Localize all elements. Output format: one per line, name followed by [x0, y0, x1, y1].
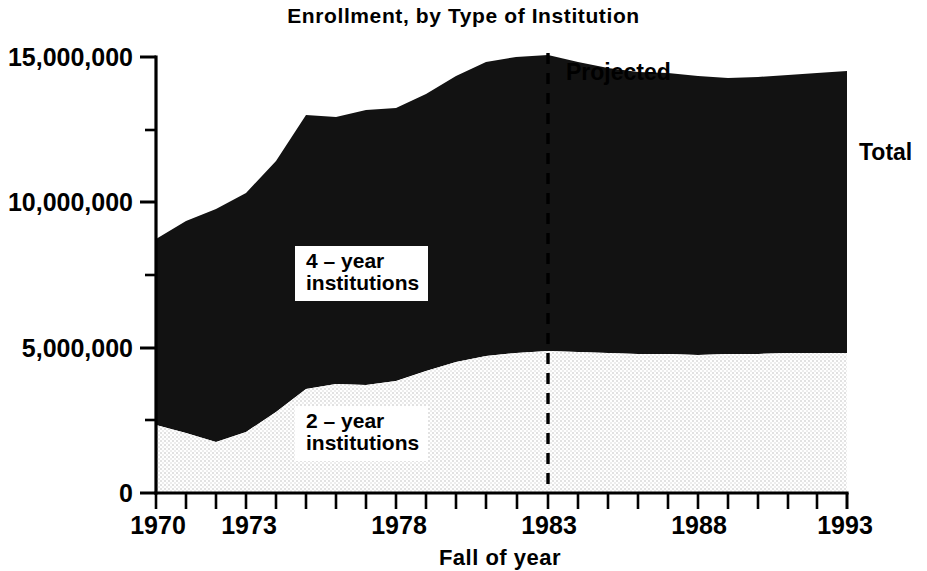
chart-plot-svg: 15,000,000 10,000,000 5,000,000 0 1970 1… [0, 0, 927, 571]
projected-annotation-label: Projected [566, 59, 671, 85]
legend-label-4-year-institutions: 4 – yearinstitutions [295, 246, 428, 301]
y-axis-label-5000000: 5,000,000 [22, 334, 133, 362]
x-axis-label-1973: 1973 [221, 511, 277, 539]
legend-label-2-year-institutions: 2 – yearinstitutions [295, 406, 428, 461]
x-axis-caption: Fall of year [439, 545, 561, 570]
y-axis-label-10000000: 10,000,000 [8, 188, 133, 216]
legend-2-year-line1: 2 – yearinstitutions [306, 410, 419, 455]
x-axis-label-1978: 1978 [371, 511, 427, 539]
x-axis-label-1970: 1970 [130, 511, 186, 539]
x-axis-label-1988: 1988 [671, 511, 727, 539]
x-axis-label-1993: 1993 [817, 511, 873, 539]
chart-figure: Enrollment, by Type of Institution [0, 0, 927, 571]
x-tick-group [156, 493, 847, 509]
total-series-label: Total [859, 139, 912, 165]
y-axis-label-0: 0 [119, 479, 133, 507]
x-axis-label-1983: 1983 [521, 511, 577, 539]
y-axis-label-15000000: 15,000,000 [8, 43, 133, 71]
legend-4-year-line1: 4 – yearinstitutions [306, 250, 419, 295]
